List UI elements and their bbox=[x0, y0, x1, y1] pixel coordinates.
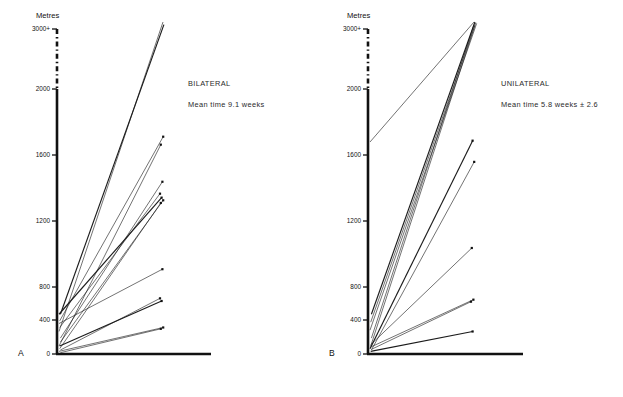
panel-a-bilateral: Metres 3000+ 2000 1600 1200 800 400 0 bbox=[0, 0, 311, 370]
data-line bbox=[371, 248, 472, 345]
svg-text:0: 0 bbox=[357, 350, 361, 357]
data-line bbox=[370, 300, 473, 348]
y-axis-title-a: Metres bbox=[36, 11, 59, 20]
data-endpoint-marker bbox=[161, 300, 163, 302]
data-endpoint-marker bbox=[162, 136, 164, 138]
data-line bbox=[59, 22, 163, 331]
panel-b-plot: Metres 3000+ 2000 1600 1200 800 400 0 bbox=[311, 0, 623, 370]
svg-text:1200: 1200 bbox=[36, 217, 51, 224]
data-endpoint-marker bbox=[472, 330, 474, 332]
data-endpoint-marker bbox=[159, 193, 161, 195]
data-line bbox=[60, 203, 161, 349]
data-endpoint-marker bbox=[161, 268, 163, 270]
data-endpoint-marker bbox=[162, 326, 164, 328]
panel-a-plot: Metres 3000+ 2000 1600 1200 800 400 0 bbox=[0, 0, 311, 370]
svg-text:3000+: 3000+ bbox=[32, 25, 50, 32]
panel-a-subtitle: Mean time 9.1 weeks bbox=[188, 100, 264, 109]
data-endpoint-marker bbox=[160, 144, 162, 146]
figure-caption bbox=[0, 381, 623, 397]
data-endpoint-marker bbox=[472, 140, 474, 142]
data-line bbox=[371, 25, 475, 346]
panel-b-unilateral: Metres 3000+ 2000 1600 1200 800 400 0 bbox=[311, 0, 623, 370]
svg-text:400: 400 bbox=[350, 316, 361, 323]
svg-text:800: 800 bbox=[350, 283, 361, 290]
data-lines-a bbox=[59, 22, 164, 353]
svg-text:800: 800 bbox=[39, 283, 50, 290]
svg-text:1600: 1600 bbox=[347, 151, 362, 158]
svg-text:2000: 2000 bbox=[347, 85, 362, 92]
svg-text:2000: 2000 bbox=[36, 85, 51, 92]
svg-text:1600: 1600 bbox=[36, 151, 51, 158]
y-tick-labels-a: 3000+ 2000 1600 1200 800 400 0 bbox=[32, 25, 50, 357]
data-line bbox=[60, 137, 164, 321]
data-line bbox=[370, 22, 474, 142]
panel-letter-a: A bbox=[18, 348, 24, 358]
svg-text:0: 0 bbox=[46, 350, 50, 357]
data-endpoint-marker bbox=[470, 301, 472, 303]
data-endpoint-marker bbox=[471, 247, 473, 249]
panel-letter-b: B bbox=[329, 348, 335, 358]
data-line bbox=[371, 162, 474, 350]
data-endpoint-marker bbox=[161, 181, 163, 183]
y-axis-title-b: Metres bbox=[347, 11, 370, 20]
data-line bbox=[60, 329, 160, 353]
data-endpoint-marker bbox=[162, 199, 164, 201]
data-endpoint-marker bbox=[159, 297, 161, 299]
figure-walking-distance: Metres 3000+ 2000 1600 1200 800 400 0 bbox=[0, 0, 623, 397]
data-line bbox=[371, 302, 471, 350]
data-endpoint-marker bbox=[473, 161, 475, 163]
y-tick-labels-b: 3000+ 2000 1600 1200 800 400 0 bbox=[343, 25, 361, 357]
data-lines-b bbox=[370, 22, 477, 351]
panel-b-title: UNILATERAL bbox=[501, 79, 550, 88]
data-line bbox=[371, 25, 474, 338]
panel-b-subtitle: Mean time 5.8 weeks ± 2.6 bbox=[501, 100, 598, 109]
svg-text:400: 400 bbox=[39, 316, 50, 323]
data-endpoint-marker bbox=[472, 299, 474, 301]
data-line bbox=[60, 194, 160, 328]
data-line bbox=[371, 331, 473, 351]
data-endpoint-marker bbox=[161, 197, 163, 199]
svg-text:1200: 1200 bbox=[347, 217, 362, 224]
svg-text:3000+: 3000+ bbox=[343, 25, 361, 32]
data-endpoint-marker bbox=[160, 328, 162, 330]
panel-a-title: BILATERAL bbox=[188, 79, 230, 88]
data-endpoint-marker bbox=[160, 202, 162, 204]
